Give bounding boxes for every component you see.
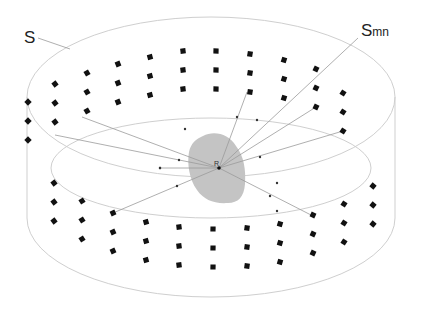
ray-dot <box>259 156 261 158</box>
ray <box>219 38 358 168</box>
array-element-back <box>83 88 90 95</box>
array-element-front <box>110 248 117 255</box>
label-receiver-r: R <box>214 160 219 167</box>
array-element-front <box>244 244 250 250</box>
array-element-front <box>210 245 215 250</box>
array-element-back <box>147 73 153 79</box>
ray-dot <box>256 119 258 121</box>
array-element-back <box>24 136 31 143</box>
array-element-back <box>24 117 31 124</box>
array-element-front <box>310 231 317 238</box>
array-element-front <box>210 264 215 269</box>
array-element-back <box>51 99 58 106</box>
array-element-front <box>110 210 117 217</box>
array-element-back <box>115 99 122 106</box>
array-element-front <box>277 259 283 265</box>
array-element-back <box>51 118 58 125</box>
ray-dot <box>184 128 186 130</box>
label-element-smn: Smn <box>361 22 389 39</box>
array-element-front <box>369 220 376 227</box>
array-element-front <box>244 263 250 269</box>
array-element-back <box>180 67 186 73</box>
label-leader-s <box>38 38 70 49</box>
array-element-back <box>83 107 90 114</box>
ray-dot <box>276 182 278 184</box>
array-element-back <box>247 51 253 57</box>
array-element-back <box>213 48 218 53</box>
ray-dot <box>236 116 238 118</box>
array-element-front <box>310 212 317 219</box>
array-element-front <box>369 182 376 189</box>
array-element-back <box>339 127 346 134</box>
array-element-back <box>313 85 320 92</box>
array-element-back <box>180 86 186 92</box>
array-element-front <box>176 262 182 268</box>
array-element-front <box>340 200 347 207</box>
array-element-back <box>247 89 253 95</box>
array-element-front <box>78 235 85 242</box>
array-element-front <box>143 238 149 244</box>
array-element-back <box>213 67 218 72</box>
array-element-back <box>313 66 320 73</box>
label-element-main: S <box>361 21 372 40</box>
array-element-back <box>180 48 186 54</box>
array-element-back <box>339 89 346 96</box>
ray-dot <box>159 167 161 169</box>
array-element-front <box>310 250 317 257</box>
array-element-back <box>115 61 122 68</box>
array-element-front <box>244 225 250 231</box>
array-element-back <box>147 54 153 60</box>
array-element-back <box>281 76 288 83</box>
array-element-back <box>24 98 31 105</box>
array-element-front <box>78 216 85 223</box>
array-element-back <box>281 57 288 64</box>
array-element-back <box>281 95 288 102</box>
array-element-front <box>277 240 283 246</box>
array-element-front <box>176 224 182 230</box>
array-element-front <box>110 229 117 236</box>
label-surface-s: S <box>24 29 35 46</box>
ray-dot <box>269 195 271 197</box>
array-element-back <box>339 108 346 115</box>
array-element-front <box>50 217 57 224</box>
array-element-back <box>313 104 320 111</box>
array-element-back <box>213 86 218 91</box>
array-element-back <box>51 80 58 87</box>
array-element-back <box>247 70 253 76</box>
array-element-back <box>83 69 90 76</box>
array-element-front <box>50 198 57 205</box>
ray-dot <box>276 210 278 212</box>
array-element-front <box>143 219 149 225</box>
array-element-front <box>369 201 376 208</box>
ray <box>219 107 316 168</box>
array-element-front <box>340 219 347 226</box>
diagram-canvas <box>0 0 422 312</box>
cylinder-array-diagram: S Smn R <box>0 0 422 312</box>
array-element-front <box>176 243 182 249</box>
array-element-front <box>143 257 149 263</box>
ray-dot <box>176 185 178 187</box>
ray-dot <box>178 159 180 161</box>
array-element-front <box>340 238 347 245</box>
label-element-sub: mn <box>372 25 389 39</box>
array-element-back <box>115 80 122 87</box>
array-element-front <box>210 226 215 231</box>
array-element-back <box>147 92 153 98</box>
array-element-front <box>277 221 283 227</box>
